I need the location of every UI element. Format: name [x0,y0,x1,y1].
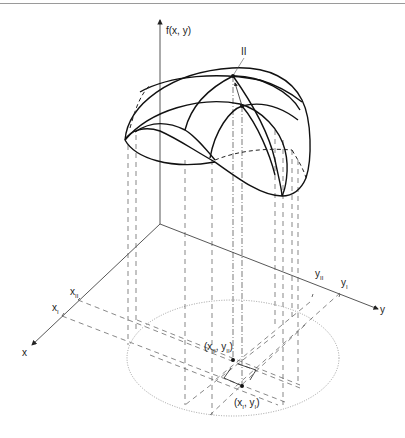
x-II-label: xII [70,286,79,299]
surface [125,68,310,196]
point-I-label: (xI, yI) [234,397,260,410]
y-I-label: yI [341,277,348,290]
x-axis [32,224,160,345]
point-I [240,384,244,388]
x-I-label: xI [52,302,59,315]
y-axis-label: y [380,304,385,315]
point-II-label: (xII, yII) [204,341,233,354]
label-pointer [234,58,244,74]
axes [32,20,378,345]
delta-bracket [224,364,256,385]
surface-diagram: f(x, y) II x y xII xI yII yI (xII, yII) … [0,0,405,438]
y-II-label: yII [315,268,324,281]
point-II [231,358,235,362]
surface-point-II [231,74,235,78]
z-axis-label: f(x, y) [166,25,191,36]
y-axis [160,224,378,309]
x-axis-label: x [22,347,27,358]
vertical-dashdot [233,76,242,385]
surface-point-label: II [241,46,247,57]
vertical-projections [128,130,298,415]
